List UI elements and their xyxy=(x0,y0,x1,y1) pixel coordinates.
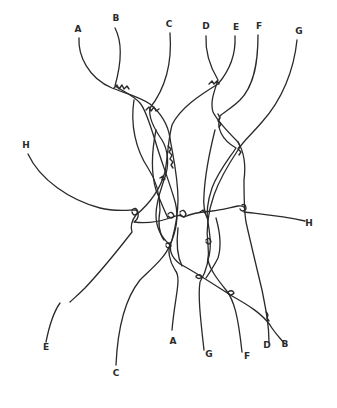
label-bottom-c: C xyxy=(113,368,120,378)
braid-diagram: A B C D E F G H H E C A G F D B xyxy=(0,0,337,408)
label-bottom-f: F xyxy=(244,351,250,361)
label-bottom-g: G xyxy=(205,349,212,359)
label-bottom-a: A xyxy=(170,336,177,346)
strand-inner-4 xyxy=(177,228,182,266)
label-right-h: H xyxy=(305,218,313,228)
label-top-c: C xyxy=(166,19,173,29)
diagram-canvas: A B C D E F G H H E C A G F D B xyxy=(0,0,337,408)
label-bottom-e: E xyxy=(43,342,49,352)
strand-e xyxy=(46,36,235,342)
knot-lower-3 xyxy=(196,275,202,279)
label-bottom-b: B xyxy=(282,339,289,349)
label-top-d: D xyxy=(202,21,209,31)
knot-lower-4 xyxy=(228,291,234,295)
top-labels: A B C D E F G xyxy=(75,13,303,36)
knot-bc xyxy=(146,107,159,111)
label-top-e: E xyxy=(233,22,239,32)
knot-lower-2 xyxy=(206,238,211,244)
bottom-labels: E C A G F D B xyxy=(43,336,289,378)
label-bottom-d: D xyxy=(263,340,270,350)
label-top-b: B xyxy=(113,13,120,23)
label-top-g: G xyxy=(295,26,302,36)
label-top-a: A xyxy=(75,24,82,34)
label-top-f: F xyxy=(256,21,262,31)
strand-c xyxy=(116,33,170,365)
label-left-h: H xyxy=(22,140,30,150)
strand-inner-3 xyxy=(204,130,215,220)
